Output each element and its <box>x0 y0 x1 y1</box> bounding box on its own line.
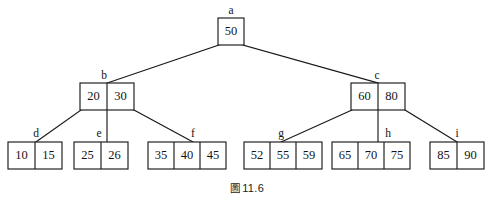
caption-prefix-label: 圖 <box>230 182 240 194</box>
tree-node-i[interactable]: 8590i <box>430 127 484 169</box>
caption-number-label: 11.6 <box>242 182 264 194</box>
node-key-e-0: 25 <box>81 148 94 162</box>
node-key-f-2: 45 <box>207 148 220 162</box>
node-key-b-1: 30 <box>114 89 127 103</box>
node-key-h-2: 75 <box>391 148 404 162</box>
node-label-a: a <box>228 4 233 16</box>
node-key-h-0: 65 <box>339 148 352 162</box>
node-key-h-1: 70 <box>365 148 378 162</box>
node-label-b: b <box>101 69 107 81</box>
tree-edge-c-g <box>281 110 352 142</box>
node-key-f-0: 35 <box>155 148 168 162</box>
node-key-a-0: 50 <box>225 24 238 38</box>
node-label-i: i <box>455 127 458 139</box>
node-key-i-1: 90 <box>464 148 477 162</box>
node-key-d-0: 10 <box>15 148 28 162</box>
node-label-g: g <box>278 127 284 140</box>
node-key-d-1: 15 <box>42 148 55 162</box>
node-key-b-0: 20 <box>87 89 100 103</box>
node-key-g-2: 59 <box>303 148 316 162</box>
node-label-c: c <box>374 69 379 81</box>
tree-node-d[interactable]: 1015d <box>8 127 62 169</box>
tree-node-f[interactable]: 354045f <box>148 127 226 169</box>
tree-node-b[interactable]: 2030b <box>80 69 134 110</box>
node-label-e: e <box>96 127 101 139</box>
tree-node-a[interactable]: 50a <box>218 4 244 45</box>
tree-edge-c-i <box>405 110 457 142</box>
node-label-f: f <box>191 127 195 139</box>
btree-figure: 50a2030b6080c1015d2526e354045f525559g657… <box>0 0 494 206</box>
figure-caption: 圖11.6 <box>0 180 494 195</box>
node-key-f-1: 40 <box>181 148 194 162</box>
tree-node-h[interactable]: 657075h <box>332 127 410 169</box>
btree-diagram-canvas: 50a2030b6080c1015d2526e354045f525559g657… <box>0 0 494 206</box>
node-key-c-0: 60 <box>358 89 371 103</box>
tree-node-c[interactable]: 6080c <box>351 69 405 110</box>
node-key-g-1: 55 <box>277 148 290 162</box>
tree-edge-b-d <box>36 110 81 142</box>
tree-edge-a-c <box>243 45 378 83</box>
node-key-g-0: 52 <box>251 148 264 162</box>
node-label-h: h <box>385 127 391 139</box>
node-key-c-1: 80 <box>385 89 398 103</box>
node-label-d: d <box>33 127 39 139</box>
tree-edge-b-f <box>134 110 193 142</box>
node-key-e-1: 26 <box>108 148 121 162</box>
node-key-i-0: 85 <box>437 148 450 162</box>
nodes-layer: 50a2030b6080c1015d2526e354045f525559g657… <box>8 4 484 169</box>
tree-node-e[interactable]: 2526e <box>74 127 128 169</box>
tree-edge-a-b <box>107 45 219 83</box>
tree-node-g[interactable]: 525559g <box>244 127 322 169</box>
